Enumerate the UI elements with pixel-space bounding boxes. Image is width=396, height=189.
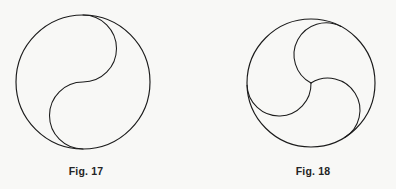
fig18-lobe-arc-1 [294,23,341,83]
figure-sheet: Fig. 17 Fig. 18 [0,0,396,189]
figure-18: Fig. 18 [198,0,396,189]
figure-17: Fig. 17 [0,0,198,189]
fig18-lobe-arc-3 [247,83,311,116]
figure-17-drawing [0,0,198,163]
fig17-s-divider [49,15,116,149]
figure-17-caption: Fig. 17 [0,165,198,178]
fig18-lobe-arc-2 [311,78,360,137]
figure-18-drawing [198,0,396,163]
figure-18-caption: Fig. 18 [198,165,396,178]
